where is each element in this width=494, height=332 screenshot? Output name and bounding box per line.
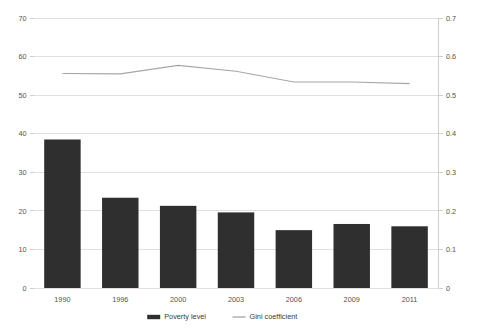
right-axis-tick-label: 0.5 — [446, 91, 456, 100]
bar-2006 — [276, 230, 312, 288]
left-axis-tick-label: 30 — [18, 168, 26, 177]
category-label-2000: 2000 — [170, 295, 186, 304]
gini-line — [62, 65, 409, 83]
left-axis-tick-label: 50 — [18, 91, 26, 100]
right-axis-tick-label: 0.7 — [446, 14, 456, 23]
chart-legend: Poverty levelGini coefficient — [147, 312, 297, 321]
right-axis-tick-label: 0.4 — [446, 129, 456, 138]
left-axis-tick-label: 10 — [18, 245, 26, 254]
legend-label-poverty-level: Poverty level — [164, 312, 206, 321]
bar-1996 — [102, 198, 138, 288]
category-label-2009: 2009 — [344, 295, 360, 304]
left-axis-tick-label: 20 — [18, 207, 26, 216]
bar-1990 — [44, 140, 80, 289]
category-label-1990: 1990 — [54, 295, 70, 304]
bar-2000 — [160, 206, 196, 288]
bar-2003 — [218, 212, 254, 288]
right-axis-tick-label: 0 — [446, 284, 450, 293]
category-label-2011: 2011 — [402, 295, 418, 304]
right-axis-tick-label: 0.3 — [446, 168, 456, 177]
right-axis-tick-label: 0.1 — [446, 245, 456, 254]
category-label-1996: 1996 — [112, 295, 128, 304]
chart-canvas: 706050403020100 0.70.60.50.40.30.20.10 1… — [0, 0, 494, 332]
bar-2011 — [391, 226, 427, 288]
category-label-2006: 2006 — [286, 295, 302, 304]
right-axis-tick-label: 0.6 — [446, 52, 456, 61]
right-value-axis: 0.70.60.50.40.30.20.10 — [439, 14, 457, 293]
left-value-axis: 706050403020100 — [18, 14, 33, 293]
chart-container: 706050403020100 0.70.60.50.40.30.20.10 1… — [0, 0, 494, 332]
left-axis-tick-label: 60 — [18, 52, 26, 61]
line-series-gini-coefficient — [62, 65, 409, 83]
right-axis-tick-label: 0.2 — [446, 207, 456, 216]
bar-2009 — [333, 224, 369, 288]
legend-swatch-bar-icon — [147, 315, 160, 319]
category-label-2003: 2003 — [228, 295, 244, 304]
left-axis-tick-label: 40 — [18, 129, 26, 138]
category-axis-labels: 1990199620002003200620092011 — [54, 295, 417, 304]
legend-label-gini-coefficient: Gini coefficient — [250, 312, 298, 321]
left-axis-tick-label: 70 — [18, 14, 26, 23]
bar-series-poverty-level — [44, 140, 428, 289]
left-axis-tick-label: 0 — [22, 284, 26, 293]
